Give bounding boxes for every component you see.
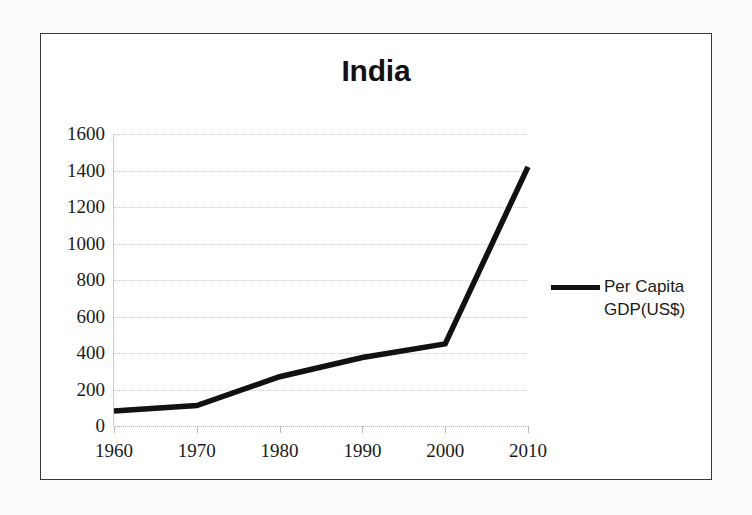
y-axis-tick-label: 1600 [67, 123, 105, 145]
x-axis-tick-label: 2000 [426, 440, 464, 462]
chart-title: India [41, 54, 711, 88]
x-axis-tick [197, 426, 198, 433]
x-axis-tick [280, 426, 281, 433]
y-axis-tick-label: 200 [77, 378, 106, 400]
x-axis-tick [362, 426, 363, 433]
y-axis-tick-label: 800 [77, 269, 106, 291]
y-axis-tick-label: 400 [77, 342, 106, 364]
legend-label-line-2: GDP(US$) [604, 299, 712, 322]
x-axis-tick-label: 1970 [178, 440, 216, 462]
y-axis-tick-label: 1400 [67, 159, 105, 181]
x-axis-tick-label: 1980 [261, 440, 299, 462]
x-axis-tick-label: 2010 [509, 440, 547, 462]
chart-legend: Per Capita GDP(US$) [551, 276, 712, 322]
series-line-per-capita-gdp [114, 167, 528, 411]
series-plot [114, 134, 528, 426]
y-axis-tick-label: 600 [77, 305, 106, 327]
x-axis-tick [528, 426, 529, 433]
chart-frame: India 02004006008001000120014001600 1960… [40, 33, 712, 480]
x-axis-tick [445, 426, 446, 433]
x-axis-tick-label: 1960 [95, 440, 133, 462]
gridline [114, 426, 528, 427]
y-axis-tick-label: 1000 [67, 232, 105, 254]
y-axis-tick-label: 1200 [67, 196, 105, 218]
plot-area: 02004006008001000120014001600 1960197019… [114, 134, 528, 426]
legend-line-swatch [551, 285, 600, 290]
y-axis-tick-label: 0 [96, 415, 106, 437]
x-axis-tick-label: 1990 [343, 440, 381, 462]
scanned-page-background: India 02004006008001000120014001600 1960… [0, 0, 752, 515]
legend-label-line-1: Per Capita [604, 276, 712, 299]
legend-label: Per Capita GDP(US$) [604, 276, 712, 322]
x-axis-tick [114, 426, 115, 433]
